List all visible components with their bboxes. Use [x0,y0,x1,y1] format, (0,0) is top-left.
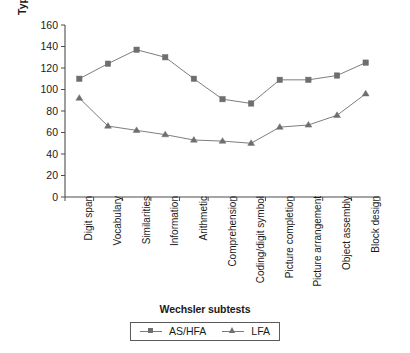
y-tick-label: 60 [30,127,58,138]
data-point [363,60,368,65]
data-point [362,90,369,96]
x-tick-label: Arithmetic [199,196,210,292]
data-point [306,77,311,82]
x-tick-label: Digit span [84,196,95,292]
legend-label: AS/HFA [169,325,206,337]
y-tick-label: 80 [30,106,58,117]
data-point [248,101,253,106]
plot-svg [65,25,380,197]
data-point [163,55,168,60]
y-tick-label: 0 [30,192,58,203]
data-point [334,112,341,118]
chart-legend: AS/HFALFA [130,322,280,341]
data-point [248,140,255,146]
y-tick-label: 40 [30,149,58,160]
data-point [219,138,226,144]
x-tick-label: Information [170,196,181,292]
data-point [276,124,283,130]
legend-square-marker-icon [140,326,162,336]
data-point [76,95,83,101]
series-as-hfa [77,47,369,106]
data-point [277,77,282,82]
legend-entry: AS/HFA [140,325,206,337]
data-point [77,76,82,81]
y-tick-label: 20 [30,170,58,181]
legend-triangle-marker-icon [222,326,244,336]
y-tick-label: 140 [30,41,58,52]
axis-lines [61,25,380,201]
x-axis-tick-labels: Digit spanVocabularySimilaritiesInformat… [65,200,380,300]
x-tick-label: Comprehension [228,196,239,292]
x-tick-label: Block design [371,196,382,292]
data-point [220,96,225,101]
x-axis-title: Wechsler subtests [0,303,410,315]
data-point [134,47,139,52]
y-tick-label: 120 [30,63,58,74]
plot-area [65,25,380,197]
data-series-group [76,47,369,145]
data-point [191,76,196,81]
data-point [105,61,110,66]
x-tick-label: Picture arrangement [313,196,324,292]
x-tick-label: Object assembly [342,196,353,292]
y-tick-label: 160 [30,20,58,31]
x-tick-label: Vocabulary [113,196,124,292]
data-point [334,73,339,78]
x-tick-label: Picture completion [285,196,296,292]
legend-entry: LFA [222,325,270,337]
x-tick-label: Coding/digit symbol [256,196,267,292]
y-tick-label: 100 [30,84,58,95]
chart-figure: Typical quotients (mean=100) 02040608010… [0,0,410,353]
x-tick-label: Similarities [142,196,153,292]
legend-label: LFA [251,325,270,337]
